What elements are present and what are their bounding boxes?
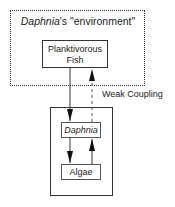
arrowhead-daphnia-to-algae	[67, 151, 73, 163]
arrowhead-fish-to-daphnia	[67, 109, 73, 121]
edges-layer	[0, 0, 175, 207]
arrowhead-algae-to-daphnia	[89, 139, 95, 151]
arrowhead-daphnia-to-fish	[89, 69, 95, 81]
